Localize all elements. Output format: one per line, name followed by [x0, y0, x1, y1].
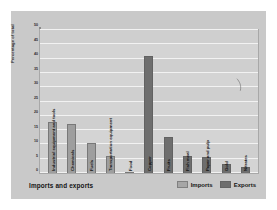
y-axis-tick-label: 40: [34, 52, 38, 56]
y-axis-tick-label: 45: [34, 38, 38, 42]
bar-category-label: Food: [128, 161, 133, 171]
bar[interactable]: [67, 124, 76, 173]
y-axis-tick-label: 0: [36, 168, 38, 172]
bar-slot: Fuels: [82, 30, 101, 173]
y-axis-tick-label: 25: [34, 96, 38, 100]
bar[interactable]: [125, 172, 134, 173]
legend-label: Exports: [234, 182, 256, 188]
bar-slot: Fish meal: [178, 30, 197, 173]
y-axis-tick-label: 30: [34, 81, 38, 85]
bar-slot: Fruits: [159, 30, 178, 173]
bar[interactable]: [87, 143, 96, 173]
bar[interactable]: [241, 167, 250, 173]
y-axis-tick-label: 10: [34, 139, 38, 143]
y-axis-tick-label: 50: [34, 23, 38, 27]
chart-footer: Imports and exports ImportsExports: [11, 179, 266, 199]
legend-item-exports[interactable]: Exports: [220, 181, 256, 188]
bar[interactable]: [222, 164, 231, 173]
bar[interactable]: [106, 156, 115, 173]
bar-slot: Copper: [139, 30, 158, 173]
y-axis-tick-label: 15: [34, 125, 38, 129]
bar-slot: Industrial equipment and tools: [43, 30, 62, 173]
bar-slot: Transportation equipment: [101, 30, 120, 173]
plot-frame: Industrial equipment and toolsChemicalsF…: [39, 29, 259, 174]
legend-item-imports[interactable]: Imports: [177, 181, 213, 188]
y-axis-tick-label: 5: [36, 154, 38, 158]
bar[interactable]: [164, 137, 173, 173]
y-axis-title: Percentage of total: [10, 0, 15, 63]
legend-label: Imports: [191, 182, 213, 188]
y-axis-tick-labels: 05101520253035404550: [27, 29, 39, 174]
bar-slot: Nitrates: [236, 30, 255, 173]
bar[interactable]: [144, 56, 153, 173]
bar-slot: Paper and pulp: [197, 30, 216, 173]
bar-slot: Chemicals: [62, 30, 81, 173]
bar-slot: Gold: [216, 30, 235, 173]
y-axis-tick-label: 20: [34, 110, 38, 114]
bar[interactable]: [183, 156, 192, 173]
bar[interactable]: [202, 157, 211, 173]
bar-slot: Food: [120, 30, 139, 173]
legend-swatch-icon: [220, 181, 231, 188]
y-axis-tick-label: 35: [34, 67, 38, 71]
chart-figure: Percentage of total 05101520253035404550…: [11, 11, 266, 199]
x-axis-title: Imports and exports: [29, 182, 93, 189]
bar-group: Industrial equipment and toolsChemicalsF…: [40, 30, 258, 173]
bar[interactable]: [48, 122, 57, 173]
chart-legend: ImportsExports: [177, 181, 256, 188]
legend-swatch-icon: [177, 181, 188, 188]
